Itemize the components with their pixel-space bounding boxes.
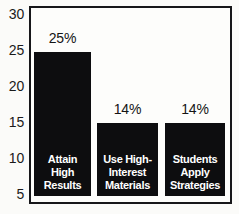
bar-label-line: Attain — [34, 153, 91, 166]
bar-label-line: Interest — [97, 166, 158, 179]
bar-label: Attain High Results — [34, 153, 91, 192]
bar-label-line: High — [34, 166, 91, 179]
bar-label-line: Results — [34, 179, 91, 192]
bar-label-line: Apply — [165, 166, 225, 179]
bar-label: Use High- Interest Materials — [97, 153, 158, 192]
bar-label-line: Strategies — [165, 179, 225, 192]
bar-use-high-interest-materials[interactable]: Use High- Interest Materials — [97, 123, 158, 196]
bar-students-apply-strategies[interactable]: Students Apply Strategies — [165, 123, 225, 196]
bar-label-line: Use High- — [97, 153, 158, 166]
bar-value-label: 14% — [165, 102, 225, 116]
bar-attain-high-results[interactable]: Attain High Results — [34, 52, 91, 196]
bars-layer: 25% Attain High Results 14% Use High- In… — [0, 0, 239, 214]
bar-label: Students Apply Strategies — [165, 153, 225, 192]
bar-label-line: Materials — [97, 179, 158, 192]
bar-chart: 30 25 20 15 10 5 25% Attain High Results… — [0, 0, 239, 214]
bar-value-label: 25% — [34, 31, 91, 45]
bar-label-line: Students — [165, 153, 225, 166]
bar-value-label: 14% — [97, 102, 158, 116]
